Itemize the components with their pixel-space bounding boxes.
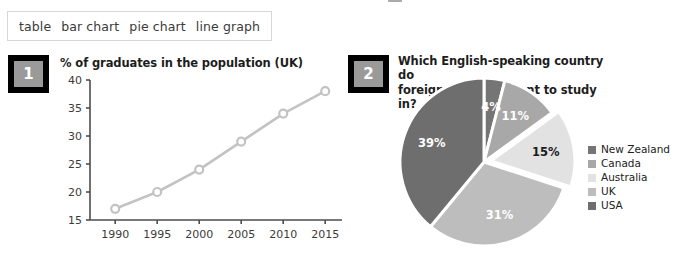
exercise-number-badge-2: 2 bbox=[348, 55, 389, 93]
legend-label: New Zealand bbox=[601, 144, 670, 155]
legend-label: Canada bbox=[601, 158, 641, 169]
svg-text:2000: 2000 bbox=[185, 228, 213, 241]
legend-swatch bbox=[588, 188, 596, 196]
pie-chart-legend: New ZealandCanadaAustraliaUKUSA bbox=[588, 143, 670, 212]
svg-text:30: 30 bbox=[68, 130, 82, 143]
svg-text:40: 40 bbox=[68, 74, 82, 87]
svg-text:1995: 1995 bbox=[143, 228, 171, 241]
svg-text:2005: 2005 bbox=[227, 228, 255, 241]
legend-item: New Zealand bbox=[588, 143, 670, 156]
legend-swatch bbox=[588, 160, 596, 168]
word-bank-option-line-graph[interactable]: line graph bbox=[196, 19, 260, 34]
word-bank-option-table[interactable]: table bbox=[19, 19, 51, 34]
x-axis-ticks: 199019952000200520102015 bbox=[101, 220, 339, 241]
line-chart-title: % of graduates in the population (UK) bbox=[60, 56, 330, 70]
page-crop-artifact bbox=[388, 0, 402, 2]
line-series bbox=[115, 91, 325, 209]
legend-item: UK bbox=[588, 185, 670, 198]
word-bank-option-pie-chart[interactable]: pie chart bbox=[129, 19, 185, 34]
legend-label: Australia bbox=[601, 172, 647, 183]
exercise-number-badge-1: 1 bbox=[8, 55, 49, 93]
legend-swatch bbox=[588, 146, 596, 154]
svg-text:4%: 4% bbox=[481, 100, 501, 114]
line-chart: 152025303540 199019952000200520102015 bbox=[56, 72, 346, 250]
svg-text:2015: 2015 bbox=[311, 228, 339, 241]
exercise-number-2: 2 bbox=[354, 61, 383, 87]
svg-text:35: 35 bbox=[68, 102, 82, 115]
legend-item: Canada bbox=[588, 157, 670, 170]
legend-swatch bbox=[588, 174, 596, 182]
svg-text:15: 15 bbox=[68, 214, 82, 227]
legend-label: UK bbox=[601, 186, 616, 197]
legend-item: Australia bbox=[588, 171, 670, 184]
svg-text:31%: 31% bbox=[486, 208, 514, 222]
word-bank: table bar chart pie chart line graph bbox=[7, 11, 272, 41]
svg-text:1990: 1990 bbox=[101, 228, 129, 241]
svg-text:25: 25 bbox=[68, 158, 82, 171]
y-axis-ticks: 152025303540 bbox=[68, 74, 90, 227]
exercise-number-1: 1 bbox=[14, 61, 43, 87]
svg-text:2010: 2010 bbox=[269, 228, 297, 241]
svg-text:20: 20 bbox=[68, 186, 82, 199]
legend-label: USA bbox=[601, 200, 623, 211]
svg-text:11%: 11% bbox=[501, 109, 529, 123]
legend-swatch bbox=[588, 202, 596, 210]
legend-item: USA bbox=[588, 199, 670, 212]
line-chart-svg: 152025303540 199019952000200520102015 bbox=[56, 72, 346, 250]
svg-text:15%: 15% bbox=[532, 145, 560, 159]
word-bank-option-bar-chart[interactable]: bar chart bbox=[61, 19, 119, 34]
worksheet-page: table bar chart pie chart line graph 1 %… bbox=[0, 0, 676, 255]
svg-text:39%: 39% bbox=[418, 136, 446, 150]
